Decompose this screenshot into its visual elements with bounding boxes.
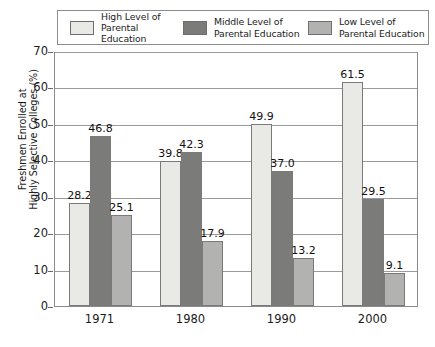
y-tick-mark (48, 125, 53, 126)
bar[interactable] (111, 215, 132, 306)
bar[interactable] (293, 258, 314, 306)
bar[interactable] (69, 203, 90, 306)
y-tick-label: 20 (18, 228, 48, 240)
bar-value-label: 25.1 (109, 202, 134, 213)
y-tick-label: 60 (18, 83, 48, 95)
y-tick-label: 0 (18, 301, 48, 313)
legend-swatch-middle (183, 21, 207, 35)
bar-group-1980: 39.842.317.9 (146, 53, 237, 306)
bar[interactable] (202, 241, 223, 306)
bar-chart-figure: High Level of Parental Education Middle … (0, 0, 435, 347)
bar-value-label: 37.0 (270, 158, 295, 169)
bar-value-label: 13.2 (291, 245, 316, 256)
y-tick-mark (48, 161, 53, 162)
legend-entry-high: High Level of Parental Education (58, 11, 182, 45)
bar-group-1990: 49.937.013.2 (237, 53, 328, 306)
bar[interactable] (342, 82, 363, 306)
y-tick-mark (48, 271, 53, 272)
bar[interactable] (363, 199, 384, 306)
plot-area: 28.246.825.139.842.317.949.937.013.261.5… (54, 52, 418, 307)
y-tick-mark (48, 234, 53, 235)
bar-value-label: 28.2 (67, 190, 92, 201)
y-tick-label: 40 (18, 156, 48, 168)
bar[interactable] (160, 161, 181, 306)
bar-group-1971: 28.246.825.1 (55, 53, 146, 306)
y-tick-label: 10 (18, 265, 48, 277)
x-tick-label-1980: 1980 (156, 313, 226, 325)
legend-swatch-high (70, 21, 94, 35)
y-tick-label: 70 (18, 46, 48, 58)
bar[interactable] (251, 124, 272, 306)
bar-value-label: 61.5 (340, 69, 365, 80)
y-tick-mark (48, 307, 53, 308)
chart-legend: High Level of Parental Education Middle … (57, 10, 429, 45)
legend-label-middle: Middle Level of Parental Education (214, 16, 299, 38)
y-axis-tick-labels: 010203040506070 (14, 52, 48, 307)
legend-label-high: High Level of Parental Education (101, 11, 182, 45)
bar[interactable] (384, 273, 405, 306)
bar-value-label: 17.9 (200, 228, 225, 239)
y-tick-mark (48, 88, 53, 89)
bar-value-label: 46.8 (88, 123, 113, 134)
x-tick-label-1971: 1971 (65, 313, 135, 325)
bar-value-label: 49.9 (249, 111, 274, 122)
legend-swatch-low (308, 21, 332, 35)
y-tick-mark (48, 52, 53, 53)
x-tick-label-2000: 2000 (338, 313, 408, 325)
y-tick-mark (48, 198, 53, 199)
x-axis-tick-labels: 1971198019902000 (54, 307, 418, 327)
legend-label-low: Low Level of Parental Education (339, 16, 424, 38)
bar[interactable] (90, 136, 111, 306)
y-tick-label: 30 (18, 192, 48, 204)
y-tick-label: 50 (18, 119, 48, 131)
bar-value-label: 29.5 (361, 186, 386, 197)
figure-caption (0, 338, 435, 347)
bar-value-label: 9.1 (386, 260, 404, 271)
x-tick-label-1990: 1990 (247, 313, 317, 325)
bar-group-2000: 61.529.59.1 (328, 53, 419, 306)
bar-value-label: 42.3 (179, 139, 204, 150)
legend-entry-low: Low Level of Parental Education (307, 16, 427, 38)
bar[interactable] (181, 152, 202, 306)
bar[interactable] (272, 171, 293, 306)
legend-entry-middle: Middle Level of Parental Education (182, 16, 307, 38)
